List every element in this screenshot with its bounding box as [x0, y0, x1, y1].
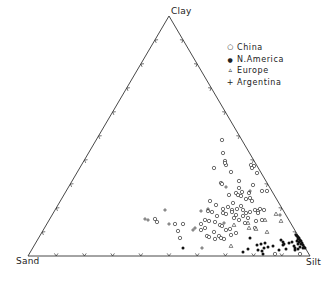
legend: ○ China ● N.America ▵ Europe + Argentina: [226, 42, 284, 88]
series-europe: [229, 212, 283, 247]
series-n-america: [182, 234, 307, 256]
legend-item-europe: ▵ Europe: [226, 65, 284, 77]
ternary-diagram: [0, 0, 335, 286]
series-china: [153, 138, 301, 255]
legend-item-argentina: + Argentina: [226, 77, 284, 89]
series-argentina: [143, 185, 282, 250]
legend-label: Argentina: [237, 77, 281, 89]
legend-label: N.America: [237, 54, 284, 66]
triangle-icon: ▵: [226, 65, 235, 77]
vertex-label-sand: Sand: [16, 256, 39, 266]
vertex-label-silt: Silt: [306, 257, 321, 267]
vertex-label-clay: Clay: [171, 6, 191, 16]
filled-circle-icon: ●: [226, 54, 235, 66]
legend-label: China: [237, 42, 263, 54]
plus-icon: +: [226, 77, 235, 89]
legend-item-china: ○ China: [226, 42, 284, 54]
data-points: [143, 138, 306, 255]
legend-label: Europe: [237, 65, 269, 77]
legend-item-n-america: ● N.America: [226, 54, 284, 66]
open-circle-icon: ○: [226, 42, 235, 54]
